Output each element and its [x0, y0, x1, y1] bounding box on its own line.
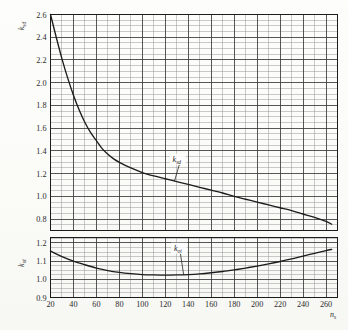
y-lower-tick-0.9: 0.9 — [36, 294, 46, 303]
y-upper-tick-2.2: 2.2 — [36, 56, 46, 65]
x-tick-220: 220 — [274, 300, 286, 309]
y-axis-upper-name: ksd — [17, 22, 27, 31]
panel-frames — [51, 15, 338, 298]
x-tick-200: 200 — [251, 300, 263, 309]
y-lower-tick-1.0: 1.0 — [36, 275, 46, 284]
x-tick-120: 120 — [159, 300, 171, 309]
coefficient-chart: 20406080100120140160180200220240260 0.81… — [0, 0, 348, 330]
grid-major-lines — [51, 15, 338, 298]
y-upper-tick-0.8: 0.8 — [36, 215, 46, 224]
x-tick-140: 140 — [182, 300, 194, 309]
x-tick-40: 40 — [69, 300, 77, 309]
y-upper-tick-2.0: 2.0 — [36, 79, 46, 88]
x-axis-tick-labels: 20406080100120140160180200220240260 — [46, 300, 332, 309]
y-axis-upper-tick-labels: 0.81.01.21.41.61.82.02.22.42.6 — [36, 11, 46, 225]
curve-k_sd — [51, 15, 332, 225]
x-axis-name: ns — [330, 310, 336, 320]
x-tick-100: 100 — [136, 300, 148, 309]
y-upper-tick-1.6: 1.6 — [36, 124, 46, 133]
x-tick-240: 240 — [297, 300, 309, 309]
y-lower-tick-1.2: 1.2 — [36, 239, 46, 248]
x-tick-180: 180 — [228, 300, 240, 309]
y-axis-lower-tick-labels: 0.91.01.11.2 — [36, 239, 46, 303]
y-upper-tick-1.8: 1.8 — [36, 101, 46, 110]
curve-k_ot — [51, 249, 332, 275]
y-upper-tick-1.0: 1.0 — [36, 192, 46, 201]
x-tick-260: 260 — [320, 300, 332, 309]
x-tick-60: 60 — [92, 300, 100, 309]
y-axis-lower-name: kot — [17, 259, 27, 267]
figure-container: 20406080100120140160180200220240260 0.81… — [0, 0, 348, 330]
x-tick-80: 80 — [115, 300, 123, 309]
y-upper-tick-1.4: 1.4 — [36, 147, 46, 156]
y-upper-tick-1.2: 1.2 — [36, 170, 46, 179]
x-tick-20: 20 — [46, 300, 54, 309]
y-upper-tick-2.6: 2.6 — [36, 11, 46, 20]
grid-minor-lines — [51, 15, 338, 298]
y-lower-tick-1.1: 1.1 — [36, 257, 46, 266]
data-curves — [51, 15, 332, 276]
x-tick-160: 160 — [205, 300, 217, 309]
y-upper-tick-2.4: 2.4 — [36, 33, 46, 42]
